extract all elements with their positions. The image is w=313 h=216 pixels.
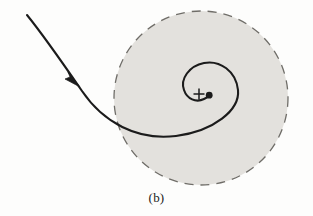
spiral-trajectory-figure [0,0,313,216]
spiral-terminal-dot [206,92,213,99]
figure-container: (b) [0,0,313,216]
figure-caption: (b) [0,190,313,206]
direction-arrowhead-icon [65,72,80,87]
shaded-disk-region [114,11,288,185]
